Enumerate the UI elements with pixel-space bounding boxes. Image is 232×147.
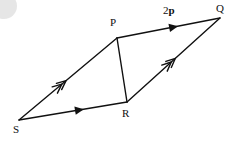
arrowhead-PQ bbox=[168, 24, 178, 32]
edge-RQ bbox=[127, 18, 220, 102]
vertex-label-Q: Q bbox=[216, 3, 224, 14]
vector-label-symbol: p bbox=[169, 4, 175, 16]
vertex-label-R: R bbox=[122, 108, 129, 119]
edge-layer bbox=[19, 18, 220, 120]
edge-SP bbox=[19, 38, 117, 120]
edge-SR bbox=[19, 102, 127, 120]
edge-PQ bbox=[117, 18, 220, 38]
arrowhead-layer bbox=[52, 24, 178, 115]
vector-label-2p: 2p bbox=[163, 5, 175, 16]
vertex-label-P: P bbox=[110, 17, 116, 28]
vector-diagram-figure: P Q R S 2p bbox=[0, 0, 232, 147]
vertex-label-S: S bbox=[13, 124, 19, 135]
edge-PR bbox=[117, 38, 127, 102]
arrowhead-SR bbox=[74, 107, 84, 115]
